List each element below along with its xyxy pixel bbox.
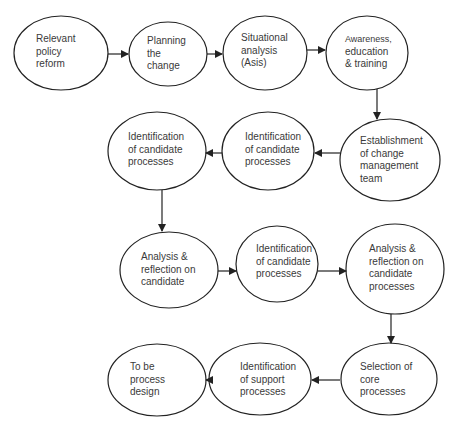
- label-line: Analysis &: [369, 243, 423, 256]
- node-label-identification-candidate-3: Identification of candidate processes: [256, 243, 312, 281]
- label-line: of change: [360, 148, 423, 161]
- label-line: processes: [240, 386, 296, 399]
- label-line: reflection on: [141, 264, 195, 277]
- label-line: To be: [130, 361, 165, 374]
- label-line: policy: [36, 46, 75, 59]
- label-line: candidate: [141, 276, 195, 289]
- label-line: reflection on: [369, 256, 423, 269]
- label-line: Awareness,: [345, 33, 392, 46]
- label-line: of support: [240, 374, 296, 387]
- label-line: Identification: [240, 361, 296, 374]
- label-line: of candidate: [256, 256, 312, 269]
- label-line: design: [130, 386, 165, 399]
- label-line: Selection of: [360, 361, 412, 374]
- node-label-relevant-policy-reform: Relevant policy reform: [36, 33, 75, 71]
- label-line: management: [360, 160, 423, 173]
- label-line: reform: [36, 58, 75, 71]
- label-line: change: [147, 60, 186, 73]
- label-line: of candidate: [128, 144, 184, 157]
- label-line: processes: [360, 386, 412, 399]
- node-label-identification-support-processes: Identification of support processes: [240, 361, 296, 399]
- label-line: & training: [345, 58, 392, 71]
- node-label-analysis-reflection-processes: Analysis & reflection on candidate proce…: [369, 243, 423, 293]
- node-label-situational-analysis: Situational analysis (Asis): [241, 32, 288, 70]
- node-label-identification-candidate-2: Identification of candidate processes: [245, 131, 301, 169]
- label-line: processes: [369, 281, 423, 294]
- label-line: Analysis &: [141, 251, 195, 264]
- label-line: team: [360, 173, 423, 186]
- node-label-planning-the-change: Planning the change: [147, 35, 186, 73]
- label-line: the: [147, 48, 186, 61]
- node-label-awareness-education-training: Awareness, education & training: [345, 33, 392, 71]
- label-line: Identification: [245, 131, 301, 144]
- label-line: Establishment: [360, 135, 423, 148]
- label-line: analysis: [241, 45, 288, 58]
- label-line: process: [130, 374, 165, 387]
- label-line: Relevant: [36, 33, 75, 46]
- node-label-selection-core-processes: Selection of core processes: [360, 361, 412, 399]
- label-line: processes: [256, 268, 312, 281]
- node-label-establishment-change-team: Establishment of change management team: [360, 135, 423, 185]
- label-line: Situational: [241, 32, 288, 45]
- label-line: Identification: [128, 131, 184, 144]
- label-line: candidate: [369, 268, 423, 281]
- node-label-analysis-reflection-candidate: Analysis & reflection on candidate: [141, 251, 195, 289]
- node-label-to-be-process-design: To be process design: [130, 361, 165, 399]
- label-line: processes: [128, 156, 184, 169]
- label-line: (Asis): [241, 57, 288, 70]
- node-label-identification-candidate-1: Identification of candidate processes: [128, 131, 184, 169]
- label-line: core: [360, 374, 412, 387]
- label-line: processes: [245, 156, 301, 169]
- label-line: Identification: [256, 243, 312, 256]
- label-line: Planning: [147, 35, 186, 48]
- label-line: education: [345, 46, 392, 59]
- label-line: of candidate: [245, 144, 301, 157]
